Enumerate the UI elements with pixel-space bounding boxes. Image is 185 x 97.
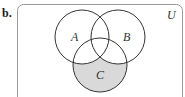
label-a: A — [70, 30, 79, 44]
venn-diagram: A B C U — [0, 0, 185, 97]
label-c: C — [96, 68, 105, 82]
label-universe: U — [167, 8, 177, 22]
label-b: B — [123, 30, 131, 44]
